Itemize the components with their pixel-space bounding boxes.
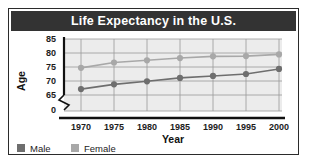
x-tick-label: 1985: [170, 122, 190, 132]
data-point-marker: [177, 55, 183, 61]
legend-label-male: Male: [30, 143, 51, 154]
plot-area-container: 85 80 75 70 65 0 Age 1970 1975 1980 1985…: [9, 31, 297, 154]
chart-title-banner: Life Expectancy in the U.S.: [11, 11, 296, 31]
data-point-marker: [210, 53, 216, 59]
y-tick-label: 65: [46, 90, 56, 100]
data-point-marker: [243, 53, 249, 59]
y-tick-label: 0: [51, 105, 56, 115]
x-tick-label: 1975: [104, 122, 124, 132]
x-tick-label: 1990: [203, 122, 223, 132]
chart-figure: Life Expectancy in the U.S.: [8, 8, 299, 155]
y-axis-title: Age: [15, 71, 27, 91]
legend-swatch-male: [17, 144, 25, 152]
data-point-marker: [78, 86, 84, 92]
line-chart: 85 80 75 70 65 0 Age 1970 1975 1980 1985…: [9, 31, 297, 154]
data-point-marker: [210, 73, 216, 79]
data-point-marker: [144, 57, 150, 63]
data-point-marker: [111, 81, 117, 87]
data-point-marker: [78, 65, 84, 71]
data-point-marker: [243, 71, 249, 77]
y-tick-label: 75: [46, 62, 56, 72]
x-tick-label: 1995: [236, 122, 256, 132]
data-point-marker: [111, 59, 117, 65]
x-axis-title: Year: [162, 133, 184, 145]
x-tick-label: 1980: [137, 122, 157, 132]
y-tick-label: 70: [46, 76, 56, 86]
chart-title: Life Expectancy in the U.S.: [71, 14, 236, 28]
legend-swatch-female: [71, 144, 79, 152]
chart-legend: Male Female: [17, 143, 116, 154]
y-tick-label: 80: [46, 48, 56, 58]
y-tick-label: 85: [46, 34, 56, 44]
data-point-marker: [276, 66, 282, 72]
data-point-marker: [177, 75, 183, 81]
data-point-marker: [276, 51, 282, 57]
data-point-marker: [144, 78, 150, 84]
plot-background: [64, 39, 282, 111]
x-tick-label: 2000: [269, 122, 289, 132]
legend-label-female: Female: [84, 143, 116, 154]
x-tick-label: 1970: [71, 122, 91, 132]
